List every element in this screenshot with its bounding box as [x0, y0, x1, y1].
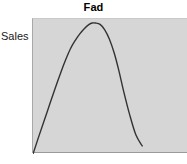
chart-title: Fad: [0, 1, 187, 14]
plot-area: [32, 18, 187, 153]
chart-figure: Fad Sales: [0, 0, 187, 164]
plot-canvas: [33, 19, 187, 154]
fad-curve-line: [33, 23, 142, 154]
y-axis-label: Sales: [1, 30, 29, 43]
